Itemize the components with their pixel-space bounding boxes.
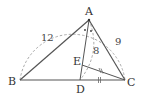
segment-EC <box>82 65 125 80</box>
point-A <box>88 19 90 21</box>
label-A: A <box>84 5 94 18</box>
label-B: B <box>8 75 16 88</box>
angle-mark-dot <box>84 29 86 31</box>
segment-AB <box>20 20 89 80</box>
geometry-diagram: A B C D E 12 9 8 <box>0 0 145 95</box>
label-E: E <box>73 55 81 68</box>
inner-arc-AD <box>80 20 94 80</box>
segment-AD <box>80 20 89 80</box>
length-AC: 9 <box>115 36 121 47</box>
label-D: D <box>76 83 85 95</box>
angle-mark-dot <box>90 30 92 32</box>
length-AB: 12 <box>41 32 54 43</box>
label-C: C <box>127 76 135 89</box>
length-AD: 8 <box>93 45 99 56</box>
